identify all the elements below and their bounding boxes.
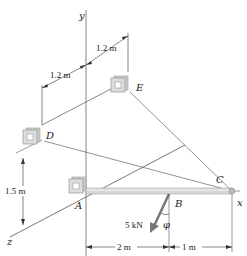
point-c-label: C <box>216 174 224 185</box>
point-a-label: A <box>74 200 82 211</box>
joint-c <box>229 188 235 194</box>
point-e-label: E <box>135 82 144 93</box>
dim-label-5: 1 m <box>182 242 196 252</box>
point-d-label: D <box>45 130 54 141</box>
dim-label-1: 1.2 m <box>50 70 71 80</box>
diagram: y z x 1.2 m 1.2 m 1.5 m D E <box>0 0 247 256</box>
point-b-label: B <box>174 198 182 209</box>
x-axis-label: x <box>237 197 243 208</box>
dim-label-4: 2 m <box>117 242 131 252</box>
support-d <box>23 128 40 144</box>
dim-label-2: 1.2 m <box>96 43 117 53</box>
y-axis-label: y <box>78 10 85 21</box>
support-a <box>69 177 86 193</box>
force-label: 5 kN <box>125 220 143 230</box>
z-axis-label: z <box>6 236 13 247</box>
support-e <box>111 76 128 92</box>
dim-label-3: 1.5 m <box>5 186 26 196</box>
boom-ac <box>86 188 232 194</box>
